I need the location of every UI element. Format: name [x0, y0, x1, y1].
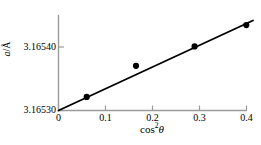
x-tick-label-0.2: 0.2 [138, 113, 167, 123]
data-point [133, 63, 139, 69]
x-axis-angle: θ [159, 123, 164, 135]
x-tick-label-0.3: 0.3 [185, 113, 214, 123]
data-point [192, 43, 198, 49]
y-axis-title: a/Å [2, 29, 12, 69]
x-tick-label-0.4: 0.4 [232, 113, 261, 123]
x-tick-label-0: 0 [44, 113, 73, 123]
y-axis-separator: / [1, 49, 12, 52]
data-point [243, 22, 249, 28]
y-axis-variable: a [1, 52, 12, 57]
y-axis-unit: Å [1, 42, 12, 49]
x-axis-function: cos [140, 123, 155, 135]
chart-figure: 3.16540 3.16530 0 0.1 0.2 0.3 0.4 a/Å co… [0, 0, 261, 145]
data-point [84, 94, 90, 100]
x-tick-label-0.1: 0.1 [91, 113, 120, 123]
x-axis-title: cos2θ [112, 124, 192, 135]
y-tick-label-upper: 3.16540 [6, 42, 56, 52]
